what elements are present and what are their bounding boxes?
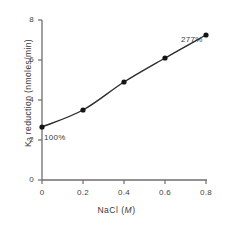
y-axis-label-rest: reduction (nmoles/min) — [23, 39, 33, 137]
y-tick-label-0: 0 — [20, 175, 34, 184]
x-axis-label-close: ) — [132, 205, 135, 215]
data-point — [121, 79, 126, 84]
x-axis-label: NaCl (M) — [0, 205, 233, 215]
y-axis-label-prefix: K — [23, 141, 33, 147]
x-tick-label-0: 0 — [29, 188, 55, 197]
annotation-277-percent: 277% — [181, 35, 203, 44]
x-tick-label-0-6: 0.6 — [152, 188, 178, 197]
data-point — [39, 124, 44, 129]
x-tick-label-0-4: 0.4 — [111, 188, 137, 197]
y-axis-label-subscript: 3 — [26, 137, 33, 141]
data-point — [80, 107, 85, 112]
chart-figure: 0 2 4 6 8 0 0.2 0.4 0.6 0.8 NaCl (M) K3 … — [0, 0, 233, 226]
x-axis-label-text: NaCl ( — [97, 205, 124, 215]
x-tick-label-0-2: 0.2 — [70, 188, 96, 197]
data-point — [162, 55, 167, 60]
y-axis-label: K3 reduction (nmoles/min) — [23, 18, 33, 168]
x-tick-label-0-8: 0.8 — [193, 188, 219, 197]
data-point — [203, 32, 208, 37]
annotation-100-percent: 100% — [44, 133, 66, 142]
